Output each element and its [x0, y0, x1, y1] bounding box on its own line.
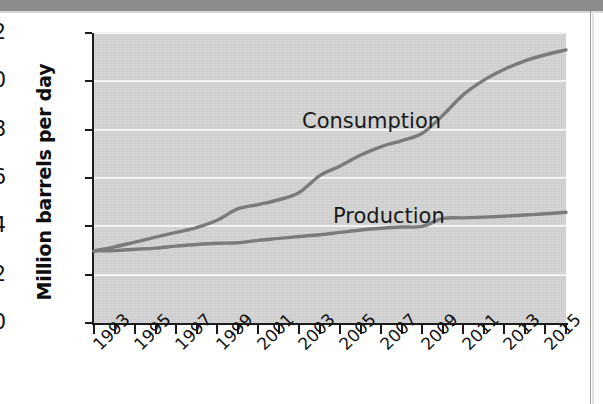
- series-label-production: Production: [333, 204, 445, 228]
- y-axis-tick: [85, 80, 92, 82]
- y-axis-tick-label: 12: [0, 20, 6, 44]
- y-axis-tick: [85, 274, 92, 276]
- y-axis-tick: [85, 129, 92, 131]
- page-right-rule-shadow: [592, 11, 594, 404]
- y-axis-tick-label: 6: [0, 165, 6, 189]
- line-chart: Million barrels per day 121086420 199319…: [0, 13, 590, 404]
- y-axis-tick-label: 10: [0, 68, 6, 92]
- y-axis-tick-label: 0: [0, 310, 6, 334]
- page-right-rule: [590, 11, 591, 404]
- series-line-consumption: [94, 50, 566, 251]
- y-axis-title: Million barrels per day: [33, 52, 55, 312]
- series-label-consumption: Consumption: [302, 109, 441, 133]
- y-axis-tick: [85, 225, 92, 227]
- chart-page: Million barrels per day 121086420 199319…: [0, 0, 603, 404]
- y-axis-tick-label: 4: [0, 213, 6, 237]
- series-line-production: [94, 212, 566, 251]
- y-axis-tick: [85, 32, 92, 34]
- y-axis-tick: [85, 322, 92, 324]
- y-axis-tick: [85, 177, 92, 179]
- y-axis-tick-label: 2: [0, 262, 6, 286]
- page-top-band: [0, 0, 603, 11]
- y-axis-tick-label: 8: [0, 117, 6, 141]
- series-lines: [94, 33, 566, 323]
